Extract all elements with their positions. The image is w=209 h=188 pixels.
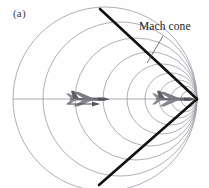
mach-cone-figure: (a) Mach cone [0,0,209,188]
panel-label: (a) [13,7,26,19]
mach-cone-annotation-label: Mach cone [139,20,191,32]
